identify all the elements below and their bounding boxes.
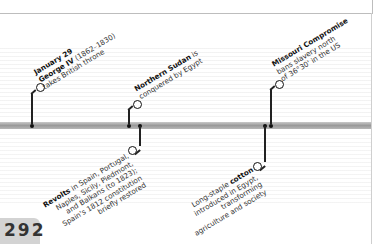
page-number: 292 xyxy=(4,220,46,240)
event-dot xyxy=(269,124,273,128)
event-dot xyxy=(30,124,34,128)
event-marker-ring xyxy=(253,162,262,171)
event-stem xyxy=(270,90,272,124)
event-dot xyxy=(127,124,131,128)
page-number-tab: 292 xyxy=(0,218,40,244)
event-marker-ring xyxy=(128,146,137,155)
event-stem xyxy=(139,126,141,146)
page-edge-rule xyxy=(371,13,372,244)
timeline-bar xyxy=(0,122,371,129)
event-stem xyxy=(264,126,266,162)
event-stem xyxy=(31,94,33,124)
top-panel xyxy=(0,0,373,14)
event-marker-ring xyxy=(133,100,142,109)
event-stem xyxy=(128,110,130,124)
